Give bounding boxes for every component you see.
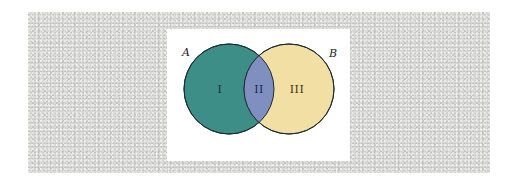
venn-diagram: A B I II III (167, 29, 350, 161)
venn-diagram-panel: A B I II III (167, 29, 350, 161)
set-a-label: A (181, 46, 190, 59)
region-iii-label: III (290, 83, 305, 96)
region-i-label: I (218, 83, 223, 96)
region-ii-label: II (254, 83, 264, 96)
set-b-label: B (328, 47, 337, 60)
